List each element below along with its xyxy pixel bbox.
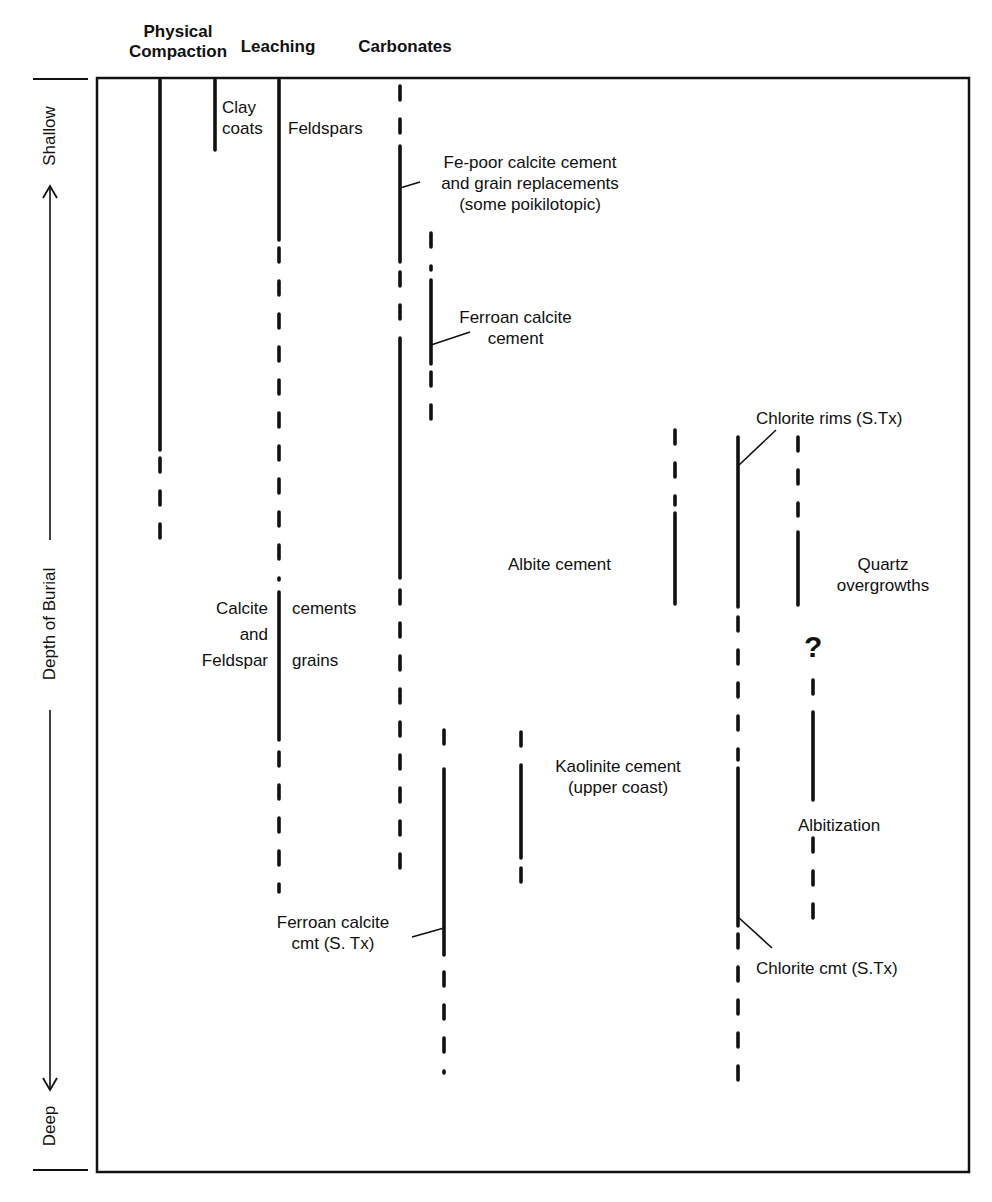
leader-line bbox=[738, 917, 772, 948]
label-chlorite-rims: Chlorite rims (S.Tx) bbox=[756, 408, 902, 429]
header-physical-compaction: Physical Compaction bbox=[128, 22, 228, 62]
label-ferroan-calcite-cmt: Ferroan calcite cmt (S. Tx) bbox=[248, 912, 418, 954]
diagenesis-diagram: Physical Compaction Leaching Carbonates … bbox=[0, 0, 992, 1202]
label-albite-cement: Albite cement bbox=[508, 554, 611, 575]
label-calcite-feldspar-left: Calcite and Feldspar bbox=[180, 596, 268, 674]
label-clay-coats: Clay coats bbox=[222, 97, 263, 139]
label-quartz-overgrowths: Quartz overgrowths bbox=[818, 554, 948, 596]
leader-line bbox=[738, 430, 776, 466]
question-mark: ? bbox=[804, 636, 822, 657]
label-chlorite-cmt: Chlorite cmt (S.Tx) bbox=[756, 958, 898, 979]
label-calcite-feldspar-right: cements grains bbox=[292, 596, 356, 674]
axis-label-shallow: Shallow bbox=[40, 106, 60, 166]
axis-label-deep: Deep bbox=[40, 1101, 60, 1151]
label-albitization: Albitization bbox=[798, 815, 880, 836]
label-kaolinite-cement: Kaolinite cement (upper coast) bbox=[528, 756, 708, 798]
axis-label-depth-of-burial: Depth of Burial bbox=[40, 562, 60, 686]
header-leaching: Leaching bbox=[228, 37, 328, 57]
label-ferroan-calcite-cement: Ferroan calcite cement bbox=[448, 307, 583, 349]
header-carbonates: Carbonates bbox=[340, 37, 470, 57]
label-fe-poor-calcite: Fe-poor calcite cement and grain replace… bbox=[410, 152, 650, 215]
label-feldspars: Feldspars bbox=[288, 118, 363, 139]
